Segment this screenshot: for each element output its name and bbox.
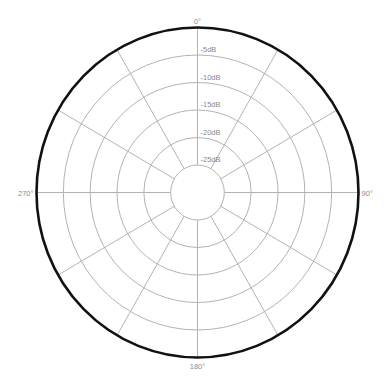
polar-chart: -5dB-10dB-15dB-20dB-25dB0°90°180°270° bbox=[0, 0, 387, 380]
radial-tick-label: -25dB bbox=[201, 155, 221, 164]
angle-label-0: 0° bbox=[194, 17, 201, 26]
angle-label-270: 270° bbox=[18, 189, 34, 198]
ring-25db bbox=[171, 165, 225, 220]
angle-label-180: 180° bbox=[190, 362, 206, 371]
axis-labels: -5dB-10dB-15dB-20dB-25dB0°90°180°270° bbox=[18, 17, 373, 371]
radial-tick-label: -10dB bbox=[201, 73, 221, 82]
radial-tick-label: -20dB bbox=[201, 128, 221, 137]
radial-tick-label: -5dB bbox=[201, 45, 217, 54]
angle-label-90: 90° bbox=[362, 189, 373, 198]
polar-grid bbox=[37, 28, 359, 358]
radial-tick-label: -15dB bbox=[201, 100, 221, 109]
